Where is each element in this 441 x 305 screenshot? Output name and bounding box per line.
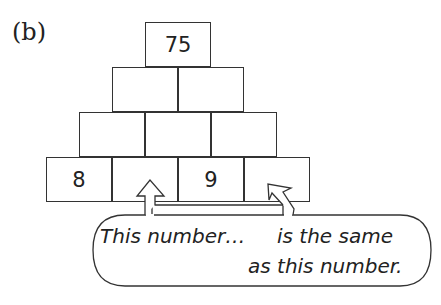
- callout-text-line2: as this number.: [248, 254, 402, 278]
- arrow-up-icon: [137, 180, 164, 215]
- callout-text-line1-left: This number…: [100, 224, 245, 248]
- arrow-diagonal-icon: [268, 184, 294, 215]
- callout-text-line1-right: is the same: [277, 224, 393, 248]
- arrow-connector: [152, 205, 283, 215]
